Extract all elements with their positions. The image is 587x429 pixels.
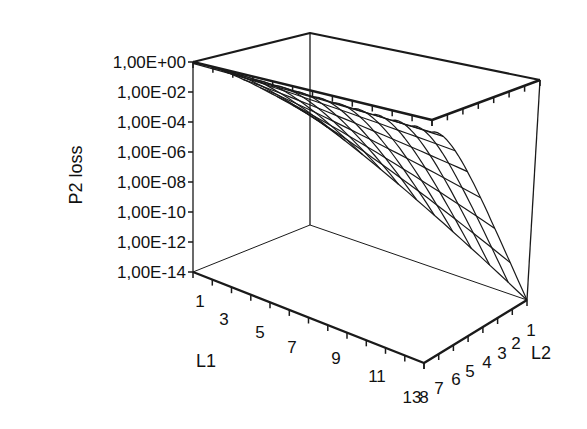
surface-line-l2 xyxy=(226,72,455,151)
z-tick-label: 1,00E-10 xyxy=(117,203,186,222)
x-tick-label: 1 xyxy=(195,292,204,311)
y-tick-label: 8 xyxy=(419,388,428,407)
x-tick-label: 11 xyxy=(368,367,386,386)
z-tick-label: 1,00E-12 xyxy=(117,233,186,252)
y-tick-label: 1 xyxy=(526,321,535,340)
x-axis-title: L1 xyxy=(196,351,216,371)
surface-line-l2 xyxy=(243,79,467,171)
x-tick-label: 7 xyxy=(287,338,296,357)
y-tick-label: 4 xyxy=(482,353,491,372)
top-back-edges xyxy=(193,33,540,80)
floor-front-edges xyxy=(193,272,527,363)
z-tick-label: 1,00E-04 xyxy=(117,113,186,132)
x-tick-label: 3 xyxy=(219,310,228,329)
y-tick-label: 5 xyxy=(465,362,474,381)
x-tick-label: 9 xyxy=(331,349,340,368)
y-tick-label: 2 xyxy=(511,334,520,353)
y-tick-label: 7 xyxy=(434,379,443,398)
z-tick-label: 1,00E-06 xyxy=(117,143,186,162)
y-tick-label: 6 xyxy=(451,370,460,389)
y-axis-tick-labels: 87654321 xyxy=(419,321,535,407)
top-front-edges xyxy=(193,62,540,120)
surface-line-l1 xyxy=(352,109,453,232)
surface-line-l1 xyxy=(432,132,527,300)
surface-line-l2 xyxy=(293,106,510,263)
z-tick-label: 1,00E+00 xyxy=(113,53,186,72)
z-tick-label: 1,00E-08 xyxy=(117,173,186,192)
surface-chart: 1,00E+001,00E-021,00E-041,00E-061,00E-08… xyxy=(0,0,587,429)
y-axis-title: L2 xyxy=(531,343,551,363)
axes-frame xyxy=(193,33,540,363)
z-tick-label: 1,00E-02 xyxy=(117,83,186,102)
x-tick-label: 5 xyxy=(255,323,264,342)
surface-wireframe xyxy=(193,64,527,301)
z-axis-title: P2 loss xyxy=(66,145,86,204)
right-vertical-edge xyxy=(527,80,540,300)
surface-line-l2 xyxy=(310,115,527,300)
z-axis-tick-labels: 1,00E+001,00E-021,00E-041,00E-061,00E-08… xyxy=(113,53,186,282)
z-tick-label: 1,00E-14 xyxy=(117,263,186,282)
y-tick-label: 3 xyxy=(497,344,506,363)
